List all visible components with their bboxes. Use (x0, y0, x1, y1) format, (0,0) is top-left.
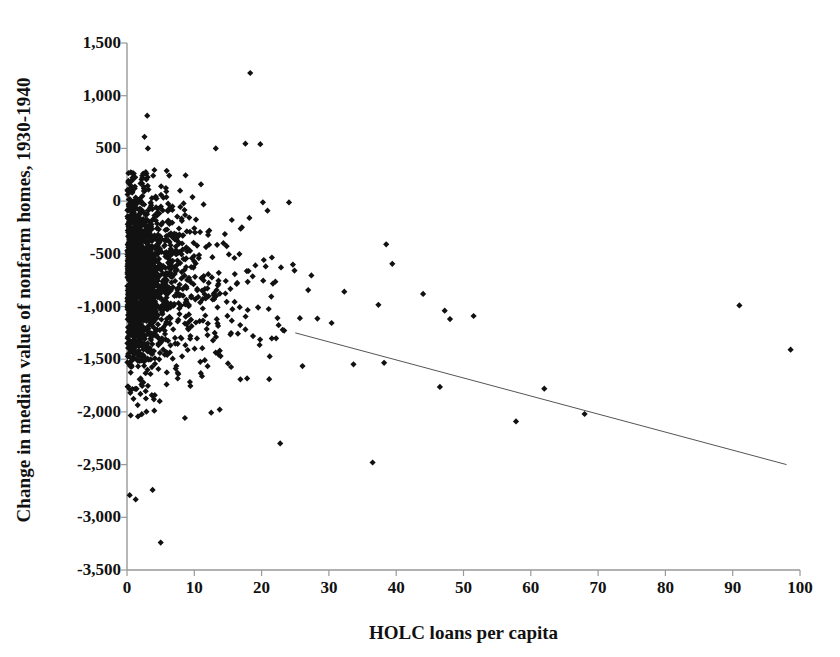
scatter-chart-figure: Change in median value of nonfarm homes,… (0, 0, 840, 657)
trendline (295, 333, 786, 465)
x-axis-title-text: HOLC loans per capita (369, 622, 558, 643)
plot-area (0, 0, 840, 657)
x-axis-title: HOLC loans per capita (127, 622, 800, 644)
axis-lines (127, 43, 800, 570)
data-points-path (124, 70, 793, 546)
tick-marks (121, 43, 800, 576)
data-point-cloud (124, 70, 793, 546)
